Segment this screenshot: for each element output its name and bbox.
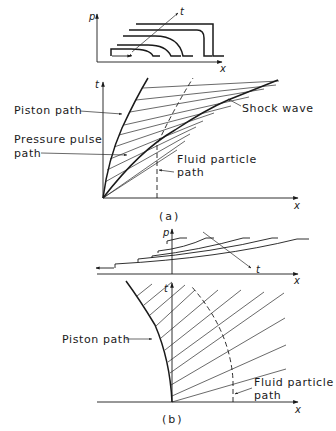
x-axis-label: x [293,275,300,286]
piston-path-label: Piston path [14,104,82,117]
time-arrow-label: t [180,6,185,17]
pressure-pulse-label-1: Pressure pulse [14,133,102,146]
shock-wave-curve [103,80,278,198]
fluid-particle-label-2: path [177,166,204,179]
panel-a-pressure-plot: p x t [88,6,226,74]
fluid-particle-label-1: Fluid particle [254,376,334,389]
pressure-profiles [111,24,224,56]
pressure-pulse-lines [103,81,279,198]
fluid-particle-path [192,287,233,402]
pressure-profiles [96,238,309,268]
panel-a-caption: (a) [159,210,180,223]
x-axis-label: x [293,200,300,211]
fluid-particle-label-2: path [254,389,281,402]
fluid-particle-label-1: Fluid particle [177,153,257,166]
piston-path-curve [126,281,172,402]
p-axis-label: p [162,227,169,238]
pressure-pulse-label-2: path [14,147,41,160]
figure-canvas: p x t t x [0,0,336,431]
t-axis-label: t [95,79,100,90]
x-axis-label: x [219,63,226,74]
x-axis-label: x [294,404,301,415]
panel-a-tx-plot: t x Piston path Pressure pulse path Shoc… [14,78,314,223]
panel-b-pressure-plot: p x t [96,227,309,286]
panel-b-tx-plot: t x Piston path Fluid particle path (b) [62,281,334,426]
panel-b-caption: (b) [162,413,184,426]
shock-wave-label: Shock wave [242,102,314,115]
piston-path-label: Piston path [62,333,130,346]
p-axis-label: p [88,11,95,22]
time-arrow-label: t [256,264,261,275]
